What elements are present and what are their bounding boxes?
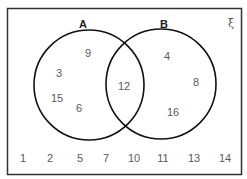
outside-element: 10 xyxy=(128,152,140,164)
set-b-element: 8 xyxy=(193,76,199,88)
set-b-element: 16 xyxy=(167,106,179,118)
outside-element: 13 xyxy=(188,152,200,164)
outside-element: 5 xyxy=(77,152,83,164)
set-b-element: 4 xyxy=(164,50,170,62)
venn-diagram: ξ A B 9 3 15 6 12 4 8 16 1 2 5 7 10 11 1… xyxy=(0,0,247,179)
outside-element: 1 xyxy=(20,152,26,164)
set-a-label: A xyxy=(79,18,87,30)
outside-element: 2 xyxy=(47,152,53,164)
set-a-element: 9 xyxy=(85,47,91,59)
outside-element: 11 xyxy=(157,152,168,164)
outside-element: 7 xyxy=(103,152,109,164)
outside-element: 14 xyxy=(219,152,231,164)
set-a-element: 6 xyxy=(76,102,82,114)
universal-set-symbol: ξ xyxy=(228,17,234,30)
set-a-element: 15 xyxy=(51,92,63,104)
intersection-element: 12 xyxy=(118,80,130,92)
set-b-label: B xyxy=(160,18,168,30)
set-a-element: 3 xyxy=(56,67,62,79)
